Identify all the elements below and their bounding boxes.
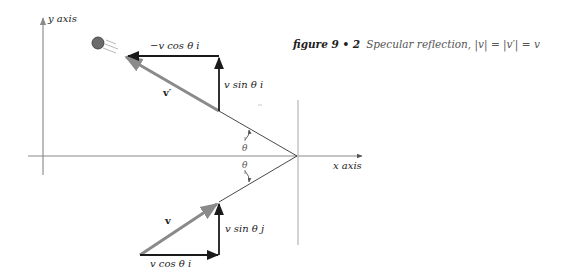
reflected-vector-label: v′	[163, 87, 171, 98]
y-axis-label: y axis	[48, 13, 77, 24]
lower-angle-label: θ	[242, 160, 247, 170]
upper-angle-arc	[245, 130, 249, 140]
bottom-vertical-label: v sin θ j	[225, 223, 264, 234]
ball-icon	[92, 37, 118, 53]
incident-vector-label: v	[165, 215, 171, 226]
top-vertical-label: v sin θ i	[224, 79, 263, 90]
incident-path-line	[219, 156, 297, 202]
x-axis-label: x axis	[333, 160, 362, 171]
bottom-horizontal-label: v cos θ i	[150, 258, 191, 269]
incident-vector-v	[140, 204, 217, 255]
upper-angle-label: θ	[242, 143, 247, 153]
lower-angle-arc	[245, 171, 249, 182]
reflected-vector-v-prime	[126, 57, 219, 111]
caption-text: Specular reflection, |v| = |v′| = v	[366, 38, 540, 50]
figure-number: figure 9 • 2	[293, 38, 360, 50]
reflected-path-line	[219, 111, 297, 156]
figure-caption: figure 9 • 2Specular reflection, |v| = |…	[293, 38, 540, 50]
top-horizontal-label: −v cos θ i	[150, 40, 200, 51]
